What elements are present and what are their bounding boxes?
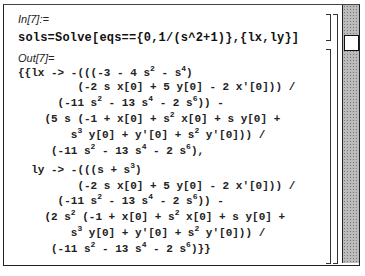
output-line: (-2 s x[0] + 5 y[0] - 2 x'[0])) / <box>77 81 295 93</box>
notebook-window: In[7]:= sols=Solve[eqs=={0,1/(s^2+1)},{l… <box>3 4 360 266</box>
output-line: {{lx -> -(((-3 - 4 s2 - s4) <box>18 67 193 79</box>
output-line: (-11 s2 - 13 s4 - 2 s6)) - <box>58 195 224 207</box>
output-line: s3 y[0] + y'[0] + s2 y'[0])) / <box>71 129 265 141</box>
input-cell[interactable]: sols=Solve[eqs=={0,1/(s^2+1)},{lx,ly}] <box>18 31 299 45</box>
output-line: (-11 s2 - 13 s4 - 2 s6)}} <box>51 243 211 255</box>
output-line: (-11 s2 - 13 s4 - 2 s6)) - <box>58 97 224 109</box>
output-line: (-2 s x[0] + 5 y[0] - 2 x'[0])) / <box>77 180 295 192</box>
notebook-content[interactable]: In[7]:= sols=Solve[eqs=={0,1/(s^2+1)},{l… <box>4 5 334 263</box>
output-label: Out[7]= <box>18 52 54 64</box>
output-line: ly -> -(((s + s3) <box>31 164 141 176</box>
scrollbar-thumb[interactable] <box>344 35 359 51</box>
vertical-scrollbar[interactable] <box>342 5 359 263</box>
output-line: (2 s2 (-1 + x[0] + s2 x[0] + s y[0] + <box>44 211 285 223</box>
output-line: s3 y[0] + y'[0] + s2 y'[0])) / <box>71 227 265 239</box>
input-cell-bracket[interactable] <box>326 14 331 41</box>
output-line: (5 s (-1 + x[0] + s2 x[0] + s y[0] + <box>44 113 280 125</box>
output-line: (-11 s2 - 13 s4 - 2 s6), <box>51 145 204 157</box>
input-label: In[7]:= <box>18 13 49 25</box>
group-cell-bracket[interactable] <box>333 14 338 264</box>
output-cell-bracket[interactable] <box>326 49 331 264</box>
